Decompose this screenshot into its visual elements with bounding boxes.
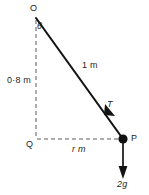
physics-diagram: O θ 0·8 m 1 m T Q r m P 2g [0, 0, 149, 195]
particle-label: P [131, 134, 137, 143]
diagram-canvas [0, 0, 149, 195]
tension-label: T [107, 100, 113, 109]
string-line [36, 18, 123, 139]
pivot-label: O [30, 4, 37, 13]
vertical-length-label: 0·8 m [7, 76, 31, 85]
radius-label: r m [72, 145, 86, 154]
angle-label: θ [37, 22, 42, 31]
foot-label: Q [26, 140, 33, 149]
weight-arrowhead-icon [119, 166, 128, 179]
string-length-label: 1 m [82, 61, 98, 70]
weight-label: 2g [117, 180, 127, 189]
particle-dot [118, 134, 127, 143]
